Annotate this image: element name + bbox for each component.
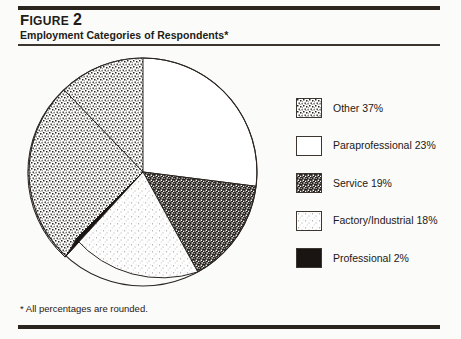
legend-swatch-other xyxy=(296,98,322,118)
figure-label: FIGURE2 xyxy=(20,11,82,29)
footnote: * All percentages are rounded. xyxy=(20,303,148,314)
legend-item: Paraprofessional 23% xyxy=(296,130,456,162)
legend-label-professional: Professional 2% xyxy=(333,253,409,264)
legend-item: Professional 2% xyxy=(296,242,456,274)
legend: Other 37% Paraprofessional 23% Service 1… xyxy=(296,92,456,280)
pie-slice-paraprofessional xyxy=(143,58,257,186)
legend-item: Other 37% xyxy=(296,92,456,124)
rule-under-subtitle xyxy=(18,44,440,46)
legend-label-service: Service 19% xyxy=(333,178,392,189)
legend-swatch-factory-industrial xyxy=(296,211,322,231)
pie-chart xyxy=(25,54,261,290)
rule-bottom xyxy=(18,325,440,329)
legend-swatch-professional xyxy=(296,248,322,268)
legend-item: Factory/Industrial 18% xyxy=(296,205,456,237)
legend-swatch-paraprofessional xyxy=(296,136,322,156)
legend-label-paraprofessional: Paraprofessional 23% xyxy=(333,140,436,151)
figure-page: FIGURE2 Employment Categories of Respond… xyxy=(0,0,461,339)
legend-label-other: Other 37% xyxy=(333,103,383,114)
figure-number: 2 xyxy=(73,11,82,28)
pie-chart-svg xyxy=(25,54,261,290)
legend-item: Service 19% xyxy=(296,167,456,199)
legend-swatch-service xyxy=(296,173,322,193)
figure-label-text: IGURE xyxy=(29,14,69,28)
rule-top xyxy=(18,6,440,10)
figure-subtitle: Employment Categories of Respondents* xyxy=(20,29,228,41)
legend-label-factory-industrial: Factory/Industrial 18% xyxy=(333,215,437,226)
